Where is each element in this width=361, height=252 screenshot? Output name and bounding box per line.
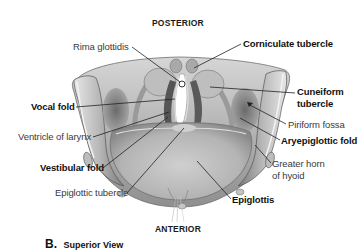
label-epiglottic-tubercle: Epiglottic tubercle — [55, 187, 128, 198]
orientation-posterior: POSTERIOR — [152, 18, 204, 28]
label-piriform-fossa: Piriform fossa — [288, 119, 345, 130]
label-corniculate-tubercle: Corniculate tubercle — [243, 38, 333, 49]
orientation-anterior: ANTERIOR — [155, 224, 201, 234]
label-greater-horn-line2: of hyoid — [272, 170, 304, 181]
label-rima-glottidis: Rima glottidis — [73, 41, 129, 52]
corniculate-tubercle — [186, 59, 198, 73]
label-aryepiglottic-fold: Aryepiglottic fold — [281, 135, 357, 146]
label-cuneiform-tubercle-line2: tubercle — [297, 98, 333, 109]
label-ventricle-of-larynx: Ventricle of larynx — [18, 131, 91, 142]
caption-title: Superior View — [63, 240, 123, 250]
label-vocal-fold: Vocal fold — [31, 101, 75, 112]
piriform-fossa-right — [231, 88, 259, 132]
label-epiglottis: Epiglottis — [232, 194, 274, 205]
figure-caption: B. Superior View — [45, 234, 123, 252]
caption-letter: B. — [45, 237, 57, 251]
label-cuneiform-tubercle-line1: Cuneiform — [297, 86, 344, 97]
label-vestibular-fold: Vestibular fold — [40, 162, 104, 173]
piriform-fossa-left — [103, 88, 129, 132]
label-greater-horn-line1: Greater horn — [272, 158, 325, 169]
